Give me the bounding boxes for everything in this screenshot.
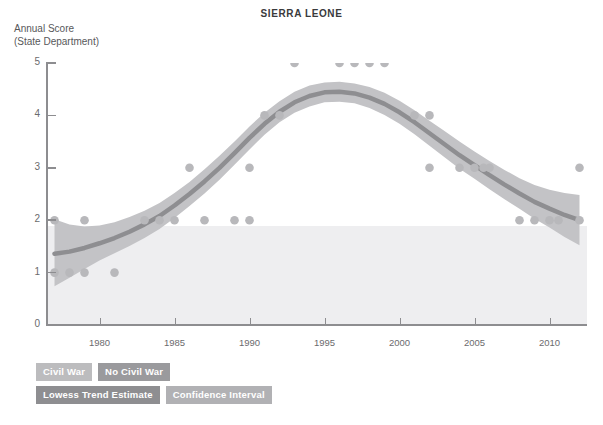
y-axis-label: Annual Score (State Department) <box>14 22 99 48</box>
x-tick-label: 2000 <box>380 337 420 348</box>
y-tick-label: 5 <box>22 56 40 67</box>
data-point[interactable] <box>185 164 194 173</box>
page-title: SIERRA LEONE <box>0 8 603 19</box>
x-tick-label: 1985 <box>155 337 195 348</box>
data-point[interactable] <box>575 216 584 225</box>
x-tick-mark <box>400 318 402 325</box>
data-point[interactable] <box>200 216 209 225</box>
data-point[interactable] <box>554 216 563 225</box>
data-point[interactable] <box>335 63 344 67</box>
x-tick-mark <box>325 318 327 325</box>
data-point[interactable] <box>260 111 269 120</box>
x-tick-mark <box>175 318 177 325</box>
legend-row-2: Lowess Trend Estimate Confidence Interva… <box>36 386 272 404</box>
y-tick-mark <box>47 167 56 169</box>
legend-item-confidence-interval[interactable]: Confidence Interval <box>166 386 272 404</box>
x-tick-mark <box>100 318 102 325</box>
data-point[interactable] <box>245 216 254 225</box>
data-point[interactable] <box>545 216 554 225</box>
legend-row-1: Civil War No Civil War <box>36 363 272 381</box>
x-tick-label: 1990 <box>230 337 270 348</box>
data-point[interactable] <box>170 216 179 225</box>
data-point[interactable] <box>290 63 299 67</box>
x-tick-mark <box>475 318 477 325</box>
data-point[interactable] <box>365 63 374 67</box>
legend-item-civil-war[interactable]: Civil War <box>36 363 92 381</box>
y-tick-label: 0 <box>22 318 40 329</box>
data-point[interactable] <box>80 268 89 277</box>
y-tick-mark <box>47 272 56 274</box>
data-point[interactable] <box>155 216 164 225</box>
data-point[interactable] <box>230 216 239 225</box>
y-tick-label: 4 <box>22 108 40 119</box>
data-point[interactable] <box>470 164 479 173</box>
data-point[interactable] <box>410 111 419 120</box>
x-tick-label: 2005 <box>455 337 495 348</box>
x-tick-mark <box>550 318 552 325</box>
data-point[interactable] <box>575 164 584 173</box>
data-point[interactable] <box>425 164 434 173</box>
x-tick-label: 1980 <box>80 337 120 348</box>
legend: Civil War No Civil War Lowess Trend Esti… <box>36 363 272 409</box>
y-axis-line <box>46 62 48 325</box>
legend-item-lowess-trend-estimate[interactable]: Lowess Trend Estimate <box>36 386 160 404</box>
x-tick-label: 1995 <box>305 337 345 348</box>
y-tick-label: 2 <box>22 213 40 224</box>
data-point[interactable] <box>425 111 434 120</box>
data-point[interactable] <box>455 164 464 173</box>
data-point[interactable] <box>65 268 74 277</box>
data-point[interactable] <box>515 216 524 225</box>
data-point[interactable] <box>485 164 494 173</box>
data-point[interactable] <box>110 268 119 277</box>
chart-root: SIERRA LEONE Annual Score (State Departm… <box>0 0 603 425</box>
data-point[interactable] <box>80 216 89 225</box>
data-point[interactable] <box>530 216 539 225</box>
data-point[interactable] <box>140 216 149 225</box>
legend-item-no-civil-war[interactable]: No Civil War <box>98 363 170 381</box>
y-tick-mark <box>47 115 56 117</box>
data-point[interactable] <box>350 63 359 67</box>
data-point[interactable] <box>380 63 389 67</box>
plot-area <box>47 63 587 325</box>
x-tick-label: 2010 <box>530 337 570 348</box>
y-tick-mark <box>47 62 56 64</box>
data-point[interactable] <box>275 111 284 120</box>
y-tick-mark <box>47 219 56 221</box>
data-point[interactable] <box>245 164 254 173</box>
x-axis-line <box>46 324 587 326</box>
y-tick-label: 3 <box>22 161 40 172</box>
y-tick-label: 1 <box>22 266 40 277</box>
x-tick-mark <box>250 318 252 325</box>
